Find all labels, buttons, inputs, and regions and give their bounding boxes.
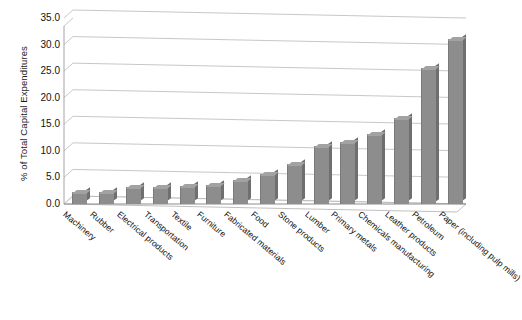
- x-tick-label: Food: [249, 210, 270, 229]
- bar-front-face: [99, 192, 114, 204]
- bar: [314, 147, 328, 204]
- bar: [367, 135, 381, 204]
- bar-front-face: [72, 192, 87, 204]
- x-tick-label: Paper (including pulp mills): [437, 210, 522, 283]
- bar: [153, 188, 167, 204]
- bar: [126, 188, 140, 204]
- bar-front-face: [314, 146, 329, 204]
- bar: [206, 186, 220, 204]
- bar-front-face: [394, 118, 409, 204]
- bar: [394, 119, 408, 204]
- y-tick-label: 0.0: [18, 199, 60, 209]
- bar: [287, 165, 301, 204]
- bar-front-face: [340, 142, 355, 204]
- y-tick-label: 25.0: [18, 66, 60, 76]
- y-tick-label: 5.0: [18, 172, 60, 182]
- bar: [99, 193, 113, 204]
- bar-series: [64, 18, 466, 204]
- bar: [72, 193, 86, 204]
- y-tick-label: 35.0: [18, 13, 60, 23]
- y-axis-ticks: 0.05.010.015.020.025.030.035.0: [18, 0, 60, 320]
- bar-front-face: [206, 185, 221, 204]
- bar-front-face: [421, 68, 436, 205]
- bar-front-face: [126, 187, 141, 204]
- bar: [421, 69, 435, 205]
- y-tick-label: 10.0: [18, 146, 60, 156]
- bar: [260, 175, 274, 204]
- bar: [340, 143, 354, 204]
- y-tick-label: 20.0: [18, 93, 60, 103]
- bar-front-face: [260, 174, 275, 204]
- bar: [233, 181, 247, 204]
- bar: [448, 40, 462, 204]
- bar: [180, 187, 194, 204]
- bar-front-face: [153, 187, 168, 204]
- x-axis-labels: MachineryRubberElectrical productsTransp…: [64, 204, 466, 320]
- y-tick-label: 15.0: [18, 119, 60, 129]
- bar-front-face: [180, 186, 195, 204]
- bar-front-face: [367, 134, 382, 204]
- plot-area: [64, 18, 466, 204]
- bar-front-face: [448, 39, 463, 204]
- y-tick-label: 30.0: [18, 40, 60, 50]
- bar-front-face: [287, 164, 302, 204]
- bar-front-face: [233, 180, 248, 204]
